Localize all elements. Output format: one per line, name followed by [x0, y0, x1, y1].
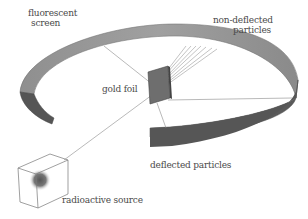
backscatter-track	[104, 46, 152, 84]
label-screen-line2: screen	[28, 18, 77, 28]
gold-foil	[148, 66, 172, 104]
label-deflected-particles: deflected particles	[150, 160, 231, 170]
screen-left-front	[20, 92, 54, 124]
label-nondef-line2: particles	[213, 25, 273, 35]
label-fluorescent-screen: fluorescent screen	[28, 8, 77, 28]
label-gold-foil: gold foil	[102, 84, 137, 94]
deflected-track	[157, 103, 166, 128]
label-screen-line1: fluorescent	[28, 8, 77, 18]
label-nondef-line1: non-deflected	[213, 15, 273, 25]
non-deflected-tracks	[166, 46, 217, 84]
radioactive-source	[18, 154, 68, 208]
label-radioactive-source: radioactive source	[62, 195, 143, 205]
incident-beam	[64, 95, 152, 160]
label-non-deflected-particles: non-deflected particles	[213, 15, 273, 35]
right-deflected-track	[168, 98, 292, 100]
